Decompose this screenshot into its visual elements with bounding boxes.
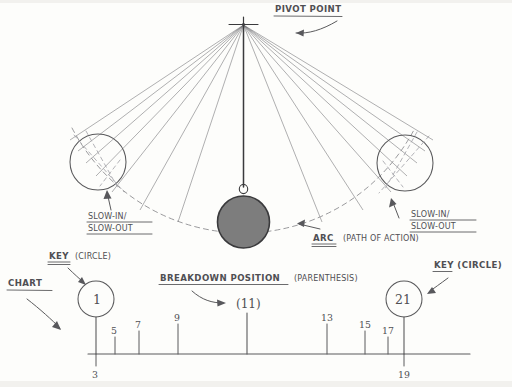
slow-in-out-right-line1: SLOW-IN/ <box>411 210 450 219</box>
diagram-canvas: PIVOT POINT <box>0 0 512 387</box>
tick-3-label: 3 <box>92 369 98 380</box>
tick-13-label: 13 <box>321 312 333 323</box>
slow-in-out-left-line2: SLOW-OUT <box>88 224 133 233</box>
arc-sublabel: (PATH OF ACTION) <box>343 234 419 243</box>
arc-label: ARC <box>313 233 334 243</box>
chart-label: CHART <box>8 278 42 288</box>
slow-in-out-left-line1: SLOW-IN/ <box>88 212 127 221</box>
pendulum-bob <box>218 196 270 248</box>
tick-19-label: 19 <box>398 369 410 380</box>
slow-in-out-right-line2: SLOW-OUT <box>411 222 456 231</box>
key-right-label: KEY (CIRCLE) <box>434 260 502 270</box>
key-circle-21-number: 21 <box>395 292 411 307</box>
paper-background <box>0 0 512 387</box>
tick-5-label: 5 <box>111 325 117 336</box>
tick-15-label: 15 <box>359 319 371 330</box>
tick-9-label: 9 <box>174 312 180 323</box>
tick-17-label: 17 <box>382 325 394 336</box>
pendulum-diagram-svg: PIVOT POINT <box>0 0 512 387</box>
paper-edge-top <box>0 0 512 3</box>
breakdown-sublabel: (PARENTHESIS) <box>294 274 358 283</box>
key-left-sublabel: (CIRCLE) <box>75 252 111 261</box>
chart-underline <box>7 290 52 291</box>
pivot-label-underline <box>274 16 342 17</box>
key-left-label: KEY <box>49 251 69 261</box>
breakdown-label: BREAKDOWN POSITION <box>160 273 280 283</box>
paper-edge-bottom <box>0 381 512 387</box>
breakdown-number: (11) <box>236 297 261 311</box>
tick-7-label: 7 <box>135 319 141 330</box>
pivot-point-label: PIVOT POINT <box>275 4 341 14</box>
key-circle-1-number: 1 <box>93 292 101 307</box>
